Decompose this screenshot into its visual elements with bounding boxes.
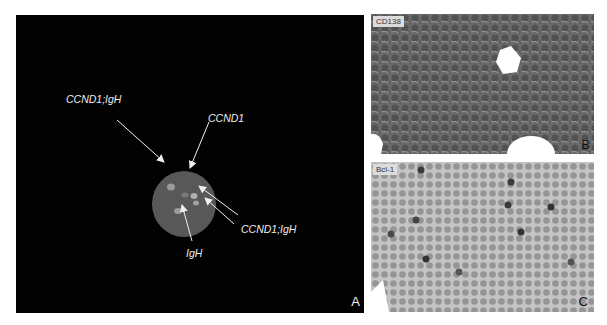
stain-label-bcl1: Bcl-1 — [373, 164, 397, 175]
label-igh: IgH — [186, 247, 202, 259]
panel-letter-a: A — [351, 294, 360, 309]
panel-b-cd138-image: CD138 B — [371, 14, 594, 154]
panel-letter-b: B — [581, 137, 590, 152]
panel-letter-c: C — [579, 294, 588, 309]
panel-c-bcl1-image: Bcl-1 C — [371, 162, 594, 312]
label-ccnd1-igh-bottom: CCND1;IgH — [241, 223, 296, 235]
stain-label-cd138: CD138 — [373, 16, 404, 27]
panel-a-fish-image: CCND1;IgH CCND1 CCND1;IgH IgH A — [16, 15, 364, 313]
cd138-tissue-texture — [371, 14, 594, 154]
bcl1-tissue-texture — [371, 162, 594, 312]
label-ccnd1-igh-top: CCND1;IgH — [66, 93, 121, 105]
fish-nucleus-graphic — [16, 15, 364, 313]
label-ccnd1: CCND1 — [208, 112, 244, 124]
